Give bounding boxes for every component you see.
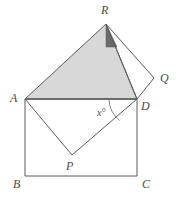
geometry-canvas — [0, 0, 182, 198]
vertex-label-B: B — [13, 178, 20, 190]
vertex-label-Q: Q — [160, 72, 169, 84]
geometry-figure: A B C D P Q R x° — [0, 0, 182, 198]
angle-arc-at-D — [109, 99, 120, 121]
angle-label-x: x° — [97, 108, 105, 118]
square-side-AP — [25, 99, 72, 155]
vertex-label-D: D — [141, 100, 150, 112]
rectangle-ABCD — [25, 99, 137, 176]
segment-QD — [137, 78, 154, 99]
vertex-label-C: C — [142, 178, 150, 190]
vertex-label-R: R — [101, 4, 108, 16]
shaded-triangle-ARD — [25, 24, 137, 99]
vertex-label-P: P — [66, 160, 73, 172]
vertex-label-A: A — [10, 92, 17, 104]
